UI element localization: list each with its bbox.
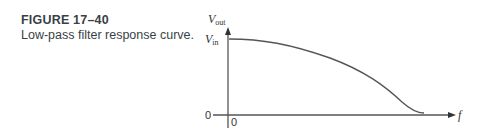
vin-level-label: Vin bbox=[205, 32, 219, 47]
response-curve bbox=[229, 39, 424, 113]
x-axis-arrow-icon bbox=[448, 112, 456, 118]
x-axis-label: f bbox=[458, 108, 463, 122]
y-zero-label: 0 bbox=[205, 109, 211, 121]
y-axis-arrow-icon bbox=[225, 27, 231, 35]
x-zero-label: 0 bbox=[231, 116, 237, 128]
response-curve-diagram: Vout Vin 0 0 f bbox=[0, 0, 488, 139]
y-axis-label: Vout bbox=[208, 12, 226, 27]
